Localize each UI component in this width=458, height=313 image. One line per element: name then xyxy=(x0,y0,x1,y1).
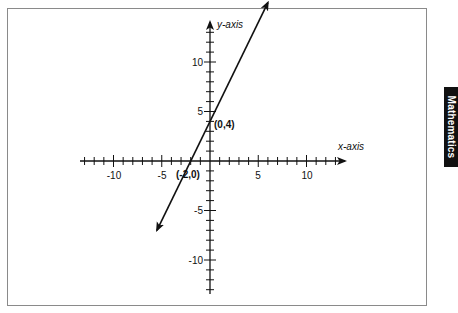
x-tick-label: -5 xyxy=(158,170,167,181)
point-label-x-intercept: (-2,0) xyxy=(176,169,200,180)
y-tick-label: -5 xyxy=(194,205,203,216)
y-tick-label: 10 xyxy=(192,57,204,68)
x-axis-title: x-axis xyxy=(337,141,364,152)
section-tab-label: Mathematics xyxy=(446,96,457,159)
x-tick-label: 5 xyxy=(255,170,261,181)
section-tab-mathematics: Mathematics xyxy=(444,87,458,167)
y-axis-title: y-axis xyxy=(216,19,243,30)
y-tick-label: 5 xyxy=(197,106,203,117)
y-tick-label: -10 xyxy=(189,255,204,266)
line-y-equals-2x-plus-4 xyxy=(157,3,268,231)
coordinate-plane: -10 -5 5 10 10 5 -5 -10 y-axis x-axis (0… xyxy=(0,0,458,313)
point-label-y-intercept: (0,4) xyxy=(214,119,235,130)
x-axis xyxy=(80,155,345,167)
y-axis xyxy=(204,22,216,294)
x-tick-label: -10 xyxy=(107,170,122,181)
x-tick-label: 10 xyxy=(301,170,313,181)
